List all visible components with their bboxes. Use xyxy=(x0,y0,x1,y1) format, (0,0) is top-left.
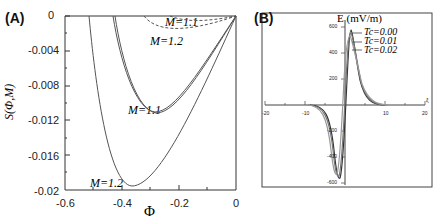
panel-a-axes xyxy=(65,16,236,190)
panel-a-curves xyxy=(89,16,236,186)
b-ytick: -400 xyxy=(327,153,337,159)
b-ytick: -200 xyxy=(327,127,337,133)
b-x-axis-label: ξ xyxy=(426,97,429,103)
b-xtick: -20 xyxy=(262,110,269,116)
b-y-axis-label: E (mV/m) xyxy=(337,12,382,24)
b-xtick: 10 xyxy=(383,110,389,116)
b-ytick: 400 xyxy=(329,49,337,55)
b-xtick: 20 xyxy=(422,110,428,116)
b-legend-tc002: Tc=0.02 xyxy=(364,44,397,55)
b-ytick: 600 xyxy=(329,23,337,29)
b-xtick: -10 xyxy=(302,110,309,116)
b-ytick: -600 xyxy=(327,179,337,185)
b-ytick: 200 xyxy=(329,75,337,81)
panel-b-frame xyxy=(262,13,432,187)
panel-b-label: (B) xyxy=(254,10,273,26)
